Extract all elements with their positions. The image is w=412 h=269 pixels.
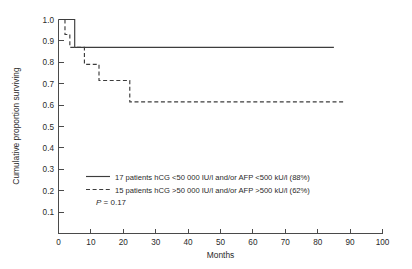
x-tick-label-90: 90 [346, 238, 356, 247]
x-axis-title: Months [207, 250, 234, 260]
x-tick-labels: 0 10 20 30 40 50 60 70 80 90 100 [56, 238, 390, 247]
y-tick-label-0.3: 0.3 [43, 165, 55, 174]
survival-curves-group [59, 20, 344, 102]
x-tick-label-70: 70 [281, 238, 291, 247]
x-tick-label-50: 50 [216, 238, 226, 247]
y-tick-label-0.1: 0.1 [43, 208, 55, 217]
y-tick-labels: 1.0 0.9 0.8 0.7 0.6 0.5 0.4 0.3 0.2 0.1 [43, 16, 55, 218]
y-tick-label-0.5: 0.5 [43, 123, 55, 132]
x-tick-marks [59, 229, 383, 234]
x-tick-label-100: 100 [376, 238, 390, 247]
y-tick-label-0.9: 0.9 [43, 37, 55, 46]
p-value-number: = 0.17 [101, 198, 126, 207]
x-tick-label-0: 0 [56, 238, 61, 247]
legend-label-dashed: 15 patients hCG >50 000 IU/l and/or AFP … [115, 186, 310, 195]
y-tick-marks [59, 20, 64, 213]
chart-plot-area: 1.0 0.9 0.8 0.7 0.6 0.5 0.4 0.3 0.2 0.1 [0, 0, 412, 269]
x-tick-label-60: 60 [248, 238, 258, 247]
y-tick-label-0.2: 0.2 [43, 187, 55, 196]
x-tick-label-80: 80 [313, 238, 323, 247]
legend-label-solid: 17 patients hCG <50 000 IU/l and/or AFP … [115, 173, 310, 182]
y-tick-label-1.0: 1.0 [43, 16, 55, 25]
kaplan-meier-survival-chart: 1.0 0.9 0.8 0.7 0.6 0.5 0.4 0.3 0.2 0.1 [0, 0, 412, 269]
y-tick-label-0.7: 0.7 [43, 80, 55, 89]
x-tick-label-10: 10 [86, 238, 96, 247]
chart-legend: 17 patients hCG <50 000 IU/l and/or AFP … [86, 173, 310, 208]
y-tick-label-0.8: 0.8 [43, 58, 55, 67]
y-tick-label-0.6: 0.6 [43, 101, 55, 110]
p-value-annotation: P = 0.17 [96, 198, 127, 207]
y-axis-title: Cumulative proportion surviving [11, 67, 21, 185]
x-tick-label-30: 30 [151, 238, 161, 247]
survival-curve-solid [59, 20, 334, 48]
x-tick-label-20: 20 [119, 238, 129, 247]
x-tick-label-40: 40 [184, 238, 194, 247]
y-tick-label-0.4: 0.4 [43, 144, 55, 153]
survival-curve-dashed [59, 20, 344, 102]
